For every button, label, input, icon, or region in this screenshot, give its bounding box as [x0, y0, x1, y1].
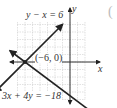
line2-equation-label: 3x + 4y = −18: [2, 91, 61, 101]
x-axis-label: x: [98, 64, 102, 74]
intersection-point: [23, 60, 27, 64]
y-axis-label: y: [72, 4, 76, 14]
intersection-label: (−6, 0): [35, 53, 62, 63]
parenthesis-fragment: (: [108, 4, 113, 20]
line1-equation-label: y − x = 6: [26, 10, 63, 20]
